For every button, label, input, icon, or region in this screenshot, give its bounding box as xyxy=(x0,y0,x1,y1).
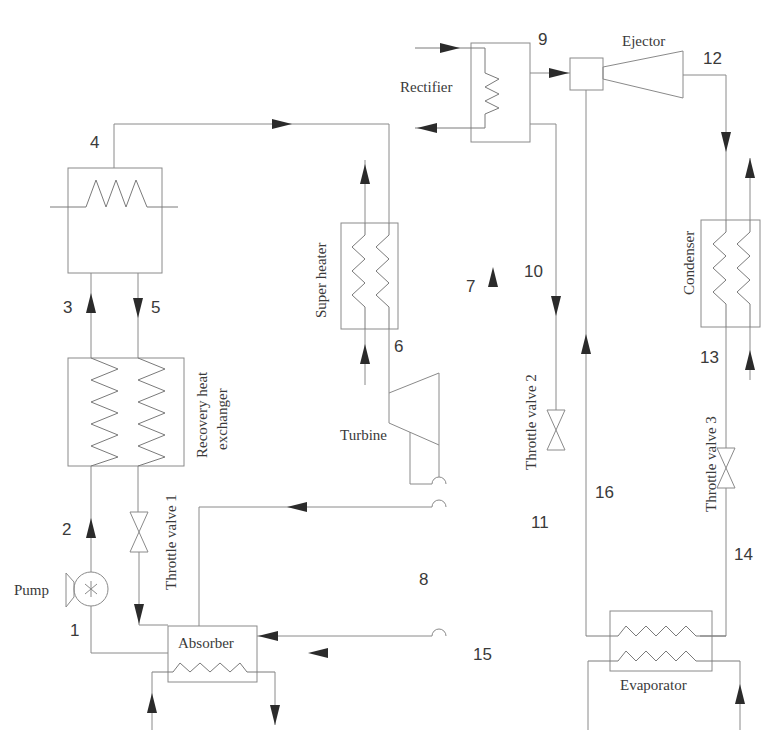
state-point-13: 13 xyxy=(700,348,719,367)
super-heater-label: Super heater xyxy=(313,243,329,318)
turbine-label: Turbine xyxy=(340,427,387,443)
generator-box xyxy=(50,168,178,273)
evaporator xyxy=(586,611,740,671)
state-point-7: 7 xyxy=(466,277,475,296)
rectifier-label: Rectifier xyxy=(400,79,452,95)
arrow-down-icon xyxy=(721,132,731,152)
arrow-left-icon xyxy=(308,648,328,658)
arrow-right-icon xyxy=(549,68,569,78)
turbine-icon xyxy=(389,373,439,445)
arrow-up-icon xyxy=(147,693,157,713)
arrow-up-icon xyxy=(735,684,745,704)
condenser-label: Condenser xyxy=(681,231,697,295)
recovery-heat-exchanger-label-2: exchanger xyxy=(214,388,230,450)
arrow-up-icon xyxy=(360,164,370,184)
stream-11 xyxy=(199,507,432,626)
arrow-up-icon xyxy=(745,350,755,370)
throttle-valve-1-label: Throttle valve 1 xyxy=(163,494,179,590)
arrow-right-icon xyxy=(272,119,292,129)
state-point-16: 16 xyxy=(595,483,614,502)
arrow-up-icon xyxy=(488,267,498,287)
state-point-1: 1 xyxy=(70,621,79,640)
arrow-left-icon xyxy=(287,502,307,512)
state-point-2: 2 xyxy=(62,520,71,539)
arrow-down-icon xyxy=(270,705,280,725)
arrow-down-icon xyxy=(134,604,144,624)
arrow-up-icon xyxy=(86,293,96,313)
pump-icon xyxy=(66,572,108,607)
absorber-label: Absorber xyxy=(178,635,234,651)
ejector-label: Ejector xyxy=(622,33,665,49)
state-point-11: 11 xyxy=(531,513,549,532)
stream-4 xyxy=(114,124,389,223)
throttle-valve-2-label: Throttle valve 2 xyxy=(523,374,539,470)
super-heater xyxy=(341,223,398,329)
state-point-5: 5 xyxy=(151,298,160,317)
arrow-down-icon xyxy=(551,296,561,316)
state-point-15: 15 xyxy=(473,645,492,664)
arrow-down-icon xyxy=(133,298,143,318)
state-point-3: 3 xyxy=(63,298,72,317)
condenser xyxy=(701,220,760,327)
absorption-power-cooling-diagram: 4 3 5 Recovery heat exchanger 2 Pump 1 T… xyxy=(0,0,782,751)
arrow-up-icon xyxy=(581,334,591,354)
recovery-heat-exchanger-label-1: Recovery heat xyxy=(194,371,210,458)
arrow-up-icon xyxy=(745,158,755,178)
state-point-12: 12 xyxy=(703,49,722,68)
throttle-valve-3-icon xyxy=(717,448,735,488)
state-point-4: 4 xyxy=(90,133,99,152)
state-point-8: 8 xyxy=(419,570,428,589)
arrow-left-icon xyxy=(417,123,437,133)
throttle-valve-1-icon xyxy=(130,512,148,552)
arrow-left-icon xyxy=(258,631,278,641)
throttle-valve-3-label: Throttle valve 3 xyxy=(703,416,719,512)
stream-1 xyxy=(91,606,168,653)
pump-label: Pump xyxy=(14,582,49,598)
state-point-6: 6 xyxy=(394,337,403,356)
state-point-9: 9 xyxy=(538,30,547,49)
state-point-14: 14 xyxy=(734,545,753,564)
stream-12 xyxy=(683,75,726,220)
state-point-10: 10 xyxy=(524,262,543,281)
arrow-up-icon xyxy=(86,518,96,538)
arrow-right-icon xyxy=(440,43,460,53)
evaporator-label: Evaporator xyxy=(620,677,687,693)
recovery-heat-exchanger xyxy=(68,358,184,466)
throttle-valve-2-icon xyxy=(547,410,565,450)
arrow-up-icon xyxy=(360,344,370,364)
ejector-icon xyxy=(570,51,683,98)
